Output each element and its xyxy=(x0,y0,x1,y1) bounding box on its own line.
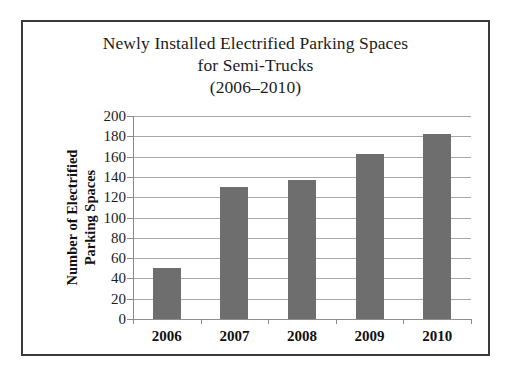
y-tick-label: 180 xyxy=(104,128,134,145)
x-tick-mark xyxy=(471,319,472,324)
bar-2006 xyxy=(153,268,181,319)
y-tick-label: 20 xyxy=(111,290,133,307)
y-axis-title-line-2: Parking Spaces xyxy=(81,150,99,286)
bar-2008 xyxy=(288,180,316,319)
x-tick-label-2009: 2009 xyxy=(355,328,385,345)
x-tick-mark xyxy=(403,319,404,324)
y-axis-title-line-1: Number of Electrified xyxy=(63,150,81,286)
y-axis-title: Number of Electrified Parking Spaces xyxy=(59,116,103,319)
x-tick-label-2010: 2010 xyxy=(422,328,452,345)
chart-title: Newly Installed Electrified Parking Spac… xyxy=(23,32,488,98)
y-tick-label: 140 xyxy=(104,168,134,185)
bar-2007 xyxy=(220,187,248,319)
gridline xyxy=(133,319,471,320)
chart-title-line-3: (2006–2010) xyxy=(23,76,488,98)
y-tick-label: 80 xyxy=(111,229,133,246)
bar-2010 xyxy=(423,134,451,319)
y-tick-label: 0 xyxy=(119,311,134,328)
x-tick-mark xyxy=(336,319,337,324)
plot-area xyxy=(133,116,471,319)
y-tick-label: 60 xyxy=(111,250,133,267)
chart-title-line-2: for Semi-Trucks xyxy=(23,54,488,76)
x-tick-mark xyxy=(201,319,202,324)
bar-2009 xyxy=(356,154,384,319)
chart-title-line-1: Newly Installed Electrified Parking Spac… xyxy=(23,32,488,54)
y-tick-label: 40 xyxy=(111,270,133,287)
x-tick-label-2006: 2006 xyxy=(152,328,182,345)
x-tick-mark xyxy=(133,319,134,324)
y-tick-label: 120 xyxy=(104,189,134,206)
y-tick-label: 160 xyxy=(104,148,134,165)
y-tick-label: 100 xyxy=(104,209,134,226)
x-tick-label-2008: 2008 xyxy=(287,328,317,345)
x-tick-mark xyxy=(268,319,269,324)
chart-frame: Newly Installed Electrified Parking Spac… xyxy=(21,20,490,356)
y-tick-label: 200 xyxy=(104,108,134,125)
x-tick-label-2007: 2007 xyxy=(219,328,249,345)
